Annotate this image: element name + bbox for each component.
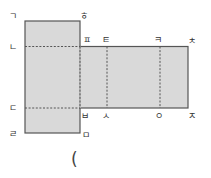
label-left-lower-fold: ㄷ: [9, 103, 17, 113]
side-strip: [80, 47, 188, 109]
label-strip-top-1: ㅍ: [83, 35, 91, 45]
label-top-left: ㄱ: [9, 11, 17, 21]
label-bottom-right-tall: ㅁ: [82, 130, 90, 140]
label-strip-top-3: ㅋ: [154, 35, 162, 45]
label-left-upper-fold: ㄴ: [9, 42, 17, 52]
label-bottom-left: ㄹ: [9, 129, 17, 139]
label-top-right-tall: ㅎ: [80, 11, 88, 21]
label-strip-bottom-1: ㅂ: [81, 111, 89, 121]
tall-face: [25, 21, 80, 133]
label-strip-top-2: ㅌ: [102, 35, 110, 45]
label-strip-bottom-3: ㅇ: [155, 111, 163, 121]
answer-blank-paren: (: [71, 149, 78, 169]
label-strip-top-right: ㅊ: [188, 36, 196, 46]
label-strip-bottom-right: ㅈ: [188, 111, 196, 121]
label-strip-bottom-2: ㅅ: [102, 111, 110, 121]
prism-net-diagram: ㄱ ㅎ ㄴ ㄷ ㄹ ㅁ ㅍ ㅌ ㅋ ㅊ ㅂ ㅅ ㅇ ㅈ (: [0, 0, 211, 178]
